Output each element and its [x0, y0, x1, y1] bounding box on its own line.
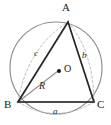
radius-segment-R: [18, 71, 58, 102]
triangle-abc: [18, 22, 94, 102]
radius-label-r: R: [39, 81, 45, 91]
center-point-o: [57, 69, 61, 73]
circumscribed-circle: [10, 22, 102, 114]
side-label-c: c: [34, 49, 38, 58]
side-label-b: b: [82, 51, 87, 60]
side-label-a: a: [53, 107, 58, 116]
vertex-label-b: B: [4, 99, 11, 110]
geometry-figure: A B C O c b a R: [0, 0, 111, 125]
vertex-label-c: C: [97, 99, 104, 110]
vertex-label-a: A: [62, 2, 70, 13]
center-label-o: O: [64, 64, 71, 74]
